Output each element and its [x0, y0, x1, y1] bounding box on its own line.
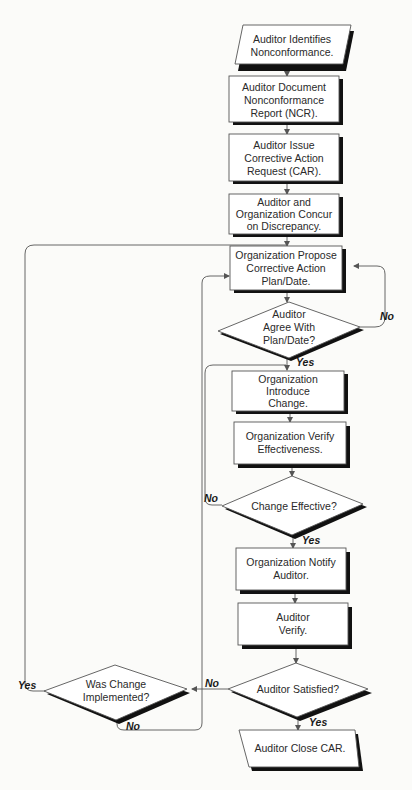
node-text-line: Corrective Action: [244, 152, 324, 164]
label-d1-no: No: [380, 310, 395, 322]
node-text-line: Auditor.: [273, 569, 309, 581]
node-text-line: Auditor Issue: [253, 139, 314, 151]
flowchart: Auditor Identifies Nonconformance. Audit…: [0, 0, 412, 790]
node-document-ncr: Auditor Document Nonconformance Report (…: [229, 76, 343, 125]
decision-change-implemented: Was Change Implemented?: [44, 665, 190, 724]
node-auditor-identifies: Auditor Identifies Nonconformance.: [235, 25, 354, 71]
node-notify-auditor: Organization Notify Auditor.: [236, 548, 350, 594]
node-text-line: Plan/Date?: [263, 334, 315, 346]
node-text-line: Auditor Document: [242, 81, 326, 93]
node-text-line: Agree With: [263, 321, 315, 333]
svg-text:Auditor Identifies: Auditor Identifies: [253, 33, 331, 45]
node-text-line: Auditor Satisfied?: [257, 683, 339, 695]
node-text-line: Corrective Action: [246, 262, 326, 274]
node-text-line: Organization Concur: [236, 208, 333, 220]
node-introduce-change: Organization Introduce Change.: [232, 371, 348, 414]
node-text-line: Auditor Close CAR.: [254, 742, 345, 754]
node-text-line: Auditor: [272, 308, 306, 320]
label-d3-no: No: [205, 677, 220, 689]
label-d4-no: No: [126, 720, 141, 732]
node-text-line: Verify.: [279, 624, 307, 636]
node-issue-car: Auditor Issue Corrective Action Request …: [229, 134, 343, 184]
node-text-line: Change.: [268, 397, 308, 409]
decision-auditor-agree: Auditor Agree With Plan/Date?: [218, 302, 364, 361]
node-verify-effectiveness: Organization Verify Effectiveness.: [234, 422, 350, 468]
node-text-line: Organization Notify: [246, 556, 336, 568]
node-propose-plan: Organization Propose Corrective Action P…: [230, 246, 346, 293]
node-text-line: Auditor and: [257, 196, 311, 208]
node-text-line: Change Effective?: [251, 500, 337, 512]
node-text-line: Organization: [258, 373, 318, 385]
node-text-line: Organization Verify: [246, 430, 335, 442]
label-d1-yes: Yes: [296, 356, 314, 368]
node-text-line: Report (NCR).: [250, 107, 317, 119]
node-text-line: Implemented?: [83, 691, 150, 703]
node-text-line: Introduce: [266, 385, 310, 397]
decision-change-effective: Change Effective?: [222, 476, 367, 539]
node-text-line: Auditor: [276, 611, 310, 623]
node-text-line: on Discrepancy.: [247, 220, 322, 232]
node-text-line: Nonconformance.: [251, 46, 334, 58]
node-auditor-verify: Auditor Verify.: [238, 603, 352, 649]
decision-auditor-satisfied: Auditor Satisfied?: [228, 663, 372, 721]
node-concur-discrepancy: Auditor and Organization Concur on Discr…: [229, 194, 343, 237]
node-text-line: Was Change: [86, 678, 146, 690]
node-text-line: Organization Propose: [235, 249, 337, 261]
node-text-line: Request (CAR).: [247, 165, 321, 177]
node-text-line: Effectiveness.: [257, 443, 322, 455]
label-d3-yes: Yes: [309, 716, 327, 728]
node-text-line: Plan/Date.: [261, 275, 310, 287]
svg-text:Nonconformance.: Nonconformance.: [251, 46, 334, 58]
node-close-car: Auditor Close CAR.: [239, 730, 363, 771]
label-d4-yes: Yes: [18, 679, 36, 691]
label-d2-no: No: [204, 492, 219, 504]
node-text-line: Nonconformance: [244, 94, 324, 106]
node-text-line: Auditor Identifies: [253, 33, 331, 45]
label-d2-yes: Yes: [302, 534, 320, 546]
